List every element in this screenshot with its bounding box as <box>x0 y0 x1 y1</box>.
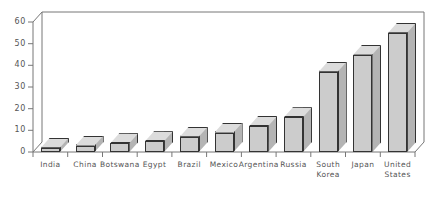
bar <box>215 123 243 153</box>
bar-front-face <box>284 117 303 152</box>
bar <box>284 107 312 152</box>
bar-front-face <box>319 72 338 152</box>
bar-front-face <box>180 137 199 152</box>
bar-side-face <box>338 62 347 152</box>
x-tick-label: United States <box>373 160 422 179</box>
bar-side-face <box>407 23 416 152</box>
bar <box>249 116 277 152</box>
bar-front-face <box>110 143 129 152</box>
bar-front-face <box>41 148 60 152</box>
bar <box>145 131 173 152</box>
bar <box>180 127 208 152</box>
bar-side-face <box>372 45 381 153</box>
y-tick-label: 60 <box>2 18 26 26</box>
bar-front-face <box>215 133 234 153</box>
y-tick-label: 40 <box>2 61 26 69</box>
y-tick-label: 30 <box>2 83 26 91</box>
x-axis-ticks <box>33 152 415 157</box>
bar-front-face <box>388 33 407 152</box>
bar-front-face <box>145 141 164 152</box>
bar-front-face <box>76 146 95 153</box>
bar <box>110 133 138 152</box>
bar <box>353 45 381 153</box>
y-tick-label: 10 <box>2 126 26 134</box>
y-tick-label: 20 <box>2 105 26 113</box>
bar <box>319 62 347 152</box>
y-tick-label: 50 <box>2 40 26 48</box>
bar-chart: 60 50 40 30 20 10 0 IndiaChinaBotswanaEg… <box>0 0 430 197</box>
bar-front-face <box>249 126 268 152</box>
bar <box>388 23 416 152</box>
bar-front-face <box>353 55 372 153</box>
bar <box>76 136 104 153</box>
y-tick-label: 0 <box>2 148 26 156</box>
bar <box>41 138 69 152</box>
